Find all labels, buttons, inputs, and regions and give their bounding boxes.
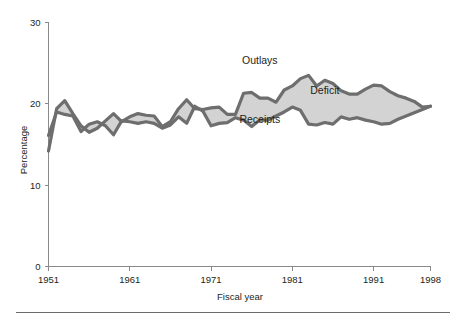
y-tick-label: 30 — [30, 17, 41, 28]
footer-divider — [16, 312, 450, 313]
series-label-outlays: Outlays — [242, 54, 278, 66]
series-label-receipts: Receipts — [239, 113, 280, 125]
x-tick-label: 1981 — [282, 274, 303, 285]
y-tick-label: 0 — [35, 261, 40, 272]
y-axis-ticks: 0102030 — [30, 17, 49, 272]
series-label-deficit: Deficit — [310, 84, 339, 96]
x-axis-ticks: 195119611971198119911998 — [38, 267, 441, 285]
budget-outlays-receipts-chart: 0102030 195119611971198119911998 Outlays… — [0, 0, 463, 322]
x-tick-label: 1961 — [119, 274, 140, 285]
chart-figure: 0102030 195119611971198119911998 Outlays… — [0, 0, 463, 322]
x-tick-label: 1998 — [420, 274, 441, 285]
x-tick-label: 1971 — [200, 274, 221, 285]
x-tick-label: 1951 — [38, 274, 59, 285]
y-tick-label: 10 — [30, 180, 41, 191]
x-tick-label: 1991 — [363, 274, 384, 285]
y-tick-label: 20 — [30, 98, 41, 109]
y-axis-title: Percentage — [18, 126, 29, 175]
x-axis-title: Fiscal year — [217, 291, 263, 302]
axes-group: 0102030 195119611971198119911998 — [30, 17, 441, 285]
